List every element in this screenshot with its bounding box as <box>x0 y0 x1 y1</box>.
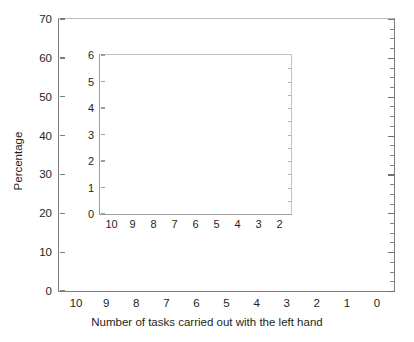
main-x-tick-label: 2 <box>302 294 332 312</box>
y-axis-title: Percentage <box>12 101 24 221</box>
figure: Percentage 010203040506070 109876543210 … <box>0 0 414 342</box>
bar-slot <box>247 55 268 214</box>
main-x-tick-label: 1 <box>332 294 362 312</box>
inset-x-tick-label: 9 <box>122 216 143 232</box>
inset-x-tick-label: 2 <box>269 216 290 232</box>
main-x-tick-label: 7 <box>151 294 181 312</box>
bar-slot <box>102 55 123 214</box>
main-y-tick-label: 50 <box>39 91 59 103</box>
bar-slot <box>227 55 248 214</box>
main-x-tick-label: 8 <box>121 294 151 312</box>
inset-y-tick-label: 5 <box>88 76 100 88</box>
inset-y-tick-label: 6 <box>88 49 100 61</box>
inset-y-tick-label: 4 <box>88 102 100 114</box>
main-x-tick-label: 9 <box>91 294 121 312</box>
bar-slot <box>164 55 185 214</box>
bar-slot <box>268 55 289 214</box>
inset-plot-area: 0123456 <box>99 54 292 215</box>
main-x-tick-label: 6 <box>181 294 211 312</box>
inset-x-tick-label: 4 <box>227 216 248 232</box>
bar-slot <box>185 55 206 214</box>
bar-slot <box>361 19 391 291</box>
bar-slot <box>206 55 227 214</box>
main-right-tick <box>388 291 394 292</box>
bar-slot <box>144 55 165 214</box>
main-y-tick-label: 40 <box>39 130 59 142</box>
inset-x-tick-label: 10 <box>101 216 122 232</box>
inset-bar-group <box>100 55 291 214</box>
main-x-tick-label: 4 <box>242 294 272 312</box>
bar-slot <box>301 19 331 291</box>
main-y-tick-label: 30 <box>39 168 59 180</box>
inset-x-tick-label: 5 <box>206 216 227 232</box>
inset-y-tick-label: 1 <box>88 182 100 194</box>
main-x-tick-label: 0 <box>362 294 392 312</box>
inset-x-tick-label: 8 <box>143 216 164 232</box>
main-x-tick-label: 3 <box>272 294 302 312</box>
bar-slot <box>331 19 361 291</box>
main-y-tick-label: 20 <box>39 207 59 219</box>
x-axis-title: Number of tasks carried out with the lef… <box>0 316 414 328</box>
main-y-tick-label: 0 <box>46 285 59 297</box>
inset-x-tick-label: 7 <box>164 216 185 232</box>
inset-y-tick-label: 2 <box>88 155 100 167</box>
bar-slot <box>123 55 144 214</box>
main-x-tick-labels: 109876543210 <box>58 294 395 312</box>
inset-x-tick-label: 6 <box>185 216 206 232</box>
main-y-tick-label: 70 <box>39 13 59 25</box>
main-y-tick-label: 60 <box>39 52 59 64</box>
inset-y-tick-label: 3 <box>88 129 100 141</box>
main-x-tick-label: 5 <box>211 294 241 312</box>
inset-x-tick-labels: 1098765432 <box>99 216 292 232</box>
main-x-tick-label: 10 <box>61 294 91 312</box>
main-y-tick-label: 10 <box>39 246 59 258</box>
inset-x-tick-label: 3 <box>248 216 269 232</box>
